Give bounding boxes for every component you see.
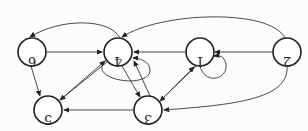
node-3: 3 (134, 96, 162, 127)
svg-text:2: 2 (283, 54, 291, 69)
edge-6-5 (31, 66, 40, 96)
svg-text:6: 6 (28, 54, 36, 69)
node-4: 4 (104, 38, 132, 69)
edge-2-4 (122, 17, 285, 38)
graph-diagram: 6 4 1 2 5 3 (0, 0, 308, 131)
svg-text:5: 5 (44, 112, 52, 127)
edge-3-1 (160, 67, 194, 101)
edge-2-3 (164, 66, 287, 110)
svg-text:1: 1 (196, 54, 204, 69)
edge-4-3 (122, 66, 140, 97)
node-2: 2 (273, 38, 301, 69)
svg-text:4: 4 (114, 54, 122, 69)
node-1: 1 (186, 38, 214, 69)
edge-4-6 (30, 23, 120, 38)
svg-text:3: 3 (144, 112, 152, 127)
node-5: 5 (34, 96, 62, 127)
node-6: 6 (18, 38, 46, 69)
edge-5-4 (60, 61, 105, 100)
graph-svg: 6 4 1 2 5 3 (0, 0, 308, 131)
